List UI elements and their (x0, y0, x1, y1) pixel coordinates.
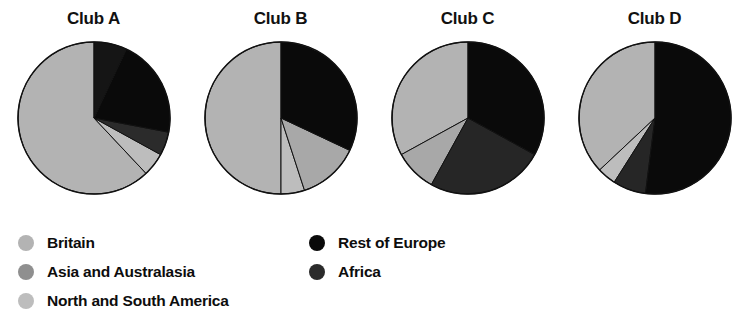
legend-item-label: Africa (338, 264, 381, 280)
pie-wrap-club-d (575, 38, 735, 198)
legend-item: Rest of Europe (309, 228, 445, 257)
pie-wrap-club-b (201, 38, 361, 198)
legend-item-label: Rest of Europe (338, 235, 445, 251)
chart-cell-club-a: Club A (0, 0, 187, 218)
chart-cell-club-c: Club C (374, 0, 561, 218)
legend-swatch-icon (18, 264, 34, 280)
legend-swatch-icon (309, 264, 325, 280)
pie-chart-club-b (201, 38, 361, 198)
legend-swatch-icon (18, 293, 34, 309)
legend-swatch-icon (18, 235, 34, 251)
pie-chart-club-a (14, 38, 174, 198)
chart-cell-club-b: Club B (187, 0, 374, 218)
pie-chart-club-d (575, 38, 735, 198)
legend-item: Britain (18, 228, 229, 257)
pie-slice (205, 42, 281, 194)
chart-legend: Britain Asia and Australasia North and S… (18, 228, 738, 314)
legend-item-label: Asia and Australasia (47, 264, 195, 280)
legend-column-right: Rest of Europe Africa (309, 228, 445, 286)
chart-title-club-b: Club B (254, 10, 308, 27)
chart-cell-club-d: Club D (561, 0, 748, 218)
chart-title-club-c: Club C (441, 10, 495, 27)
legend-swatch-icon (309, 235, 325, 251)
chart-title-club-a: Club A (67, 10, 120, 27)
legend-column-left: Britain Asia and Australasia North and S… (18, 228, 229, 315)
legend-item: Africa (309, 257, 445, 286)
legend-item: North and South America (18, 286, 229, 315)
pie-wrap-club-a (14, 38, 174, 198)
legend-item: Asia and Australasia (18, 257, 229, 286)
pie-wrap-club-c (388, 38, 548, 198)
legend-item-label: North and South America (47, 293, 229, 309)
pie-slice (645, 42, 731, 194)
pie-chart-row: Club A Club B Club C Club D (0, 0, 751, 218)
chart-title-club-d: Club D (628, 10, 682, 27)
pie-chart-club-c (388, 38, 548, 198)
legend-item-label: Britain (47, 235, 95, 251)
